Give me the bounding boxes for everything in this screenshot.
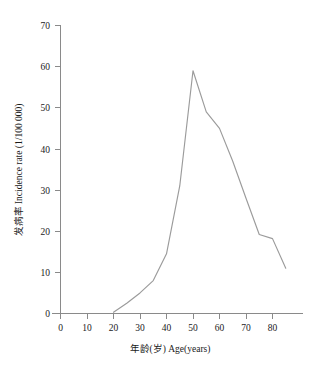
- y-tick-label-10: 10: [41, 268, 51, 278]
- y-tick-label-40: 40: [41, 145, 51, 155]
- x-tick-label-30: 30: [135, 323, 145, 333]
- y-tick-label-60: 60: [41, 62, 51, 72]
- y-tick-label-70: 70: [41, 21, 51, 31]
- x-tick-label-70: 70: [241, 323, 251, 333]
- y-axis-tick-labels: 70 60 50 40 30 20 10 0: [41, 21, 51, 319]
- x-axis-ticks: [61, 314, 273, 320]
- y-axis-title: 发病率 Incidence rate (1/100 000): [13, 104, 25, 237]
- x-axis-title: 年龄(岁) Age(years): [130, 343, 211, 355]
- x-axis-tick-labels: 0 10 20 30 40 50 60 70 80: [58, 323, 277, 333]
- y-axis-ticks: [55, 26, 61, 273]
- y-tick-label-30: 30: [41, 186, 51, 196]
- chart-figure: 70 60 50 40 30 20 10 0 0 10 20 30: [0, 0, 310, 388]
- series-incidence-rate-line: [114, 71, 286, 313]
- x-tick-label-40: 40: [162, 323, 172, 333]
- x-tick-label-10: 10: [82, 323, 92, 333]
- x-tick-label-50: 50: [188, 323, 198, 333]
- x-tick-label-60: 60: [215, 323, 225, 333]
- y-tick-label-20: 20: [41, 227, 51, 237]
- x-tick-label-80: 80: [268, 323, 278, 333]
- y-tick-label-0: 0: [45, 309, 50, 319]
- incidence-rate-line-chart: 70 60 50 40 30 20 10 0 0 10 20 30: [0, 0, 310, 388]
- x-tick-label-20: 20: [109, 323, 119, 333]
- y-tick-label-50: 50: [41, 103, 51, 113]
- x-tick-label-0: 0: [58, 323, 63, 333]
